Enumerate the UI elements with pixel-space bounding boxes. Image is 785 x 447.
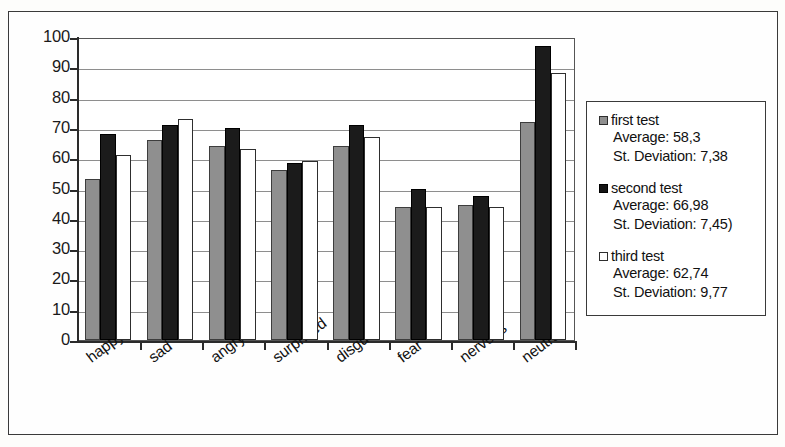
bar [473,196,489,340]
bar [395,207,411,340]
bar [85,179,101,340]
bar-group [85,39,132,340]
legend-st-deviation: St. Deviation: 7,38 [599,147,765,166]
y-tick-label: 70 [24,118,70,137]
legend-entry: third testAverage: 62,74St. Deviation: 9… [599,248,765,301]
bar [489,207,505,340]
y-tick-label: 60 [24,148,70,167]
bar [240,149,256,340]
y-tick-label: 20 [24,269,70,288]
bar [333,146,349,340]
legend-average: Average: 66,98 [599,196,765,215]
legend-average: Average: 62,74 [599,264,765,283]
legend-series-label: second test [611,180,682,196]
chart-page: 1009080706050403020100 happysadangrysurp… [0,0,785,447]
y-tick-label: 50 [24,179,70,198]
bar-group [333,39,380,340]
x-axis-line [77,341,576,343]
legend-swatch-icon [599,252,608,261]
bar [162,125,178,340]
legend-entry: second testAverage: 66,98St. Deviation: … [599,180,765,233]
y-tick-label: 0 [24,330,70,349]
bar [116,155,132,340]
legend-series-label: first test [611,112,659,128]
bar-group [209,39,256,340]
bar [364,137,380,340]
legend-entry-header: third test [599,248,765,264]
legend-swatch-icon [599,184,608,193]
legend-entry: first testAverage: 58,3St. Deviation: 7,… [599,112,765,165]
bar [411,189,427,341]
y-tick-label: 90 [24,57,70,76]
legend-series-label: third test [611,248,664,264]
legend-average: Average: 58,3 [599,128,765,147]
bar [349,125,365,340]
y-tick-label: 80 [24,88,70,107]
legend-entry-header: first test [599,112,765,128]
bar [147,140,163,340]
bar [426,207,442,340]
bar [178,119,194,340]
bar [271,170,287,340]
y-tick-label: 100 [24,27,70,46]
y-tick-label: 40 [24,209,70,228]
y-tick-label: 30 [24,239,70,258]
bar-group [458,39,505,340]
bar [100,134,116,340]
legend: first testAverage: 58,3St. Deviation: 7,… [586,101,766,316]
bar-group [395,39,442,340]
legend-entry-header: second test [599,180,765,196]
bar-group [271,39,318,340]
bar [287,163,303,340]
bar-group [520,39,567,340]
y-axis-line [77,37,79,343]
plot-area [78,38,575,341]
legend-st-deviation: St. Deviation: 9,77 [599,283,765,302]
bar [225,128,241,340]
bar-group [147,39,194,340]
bar [551,73,567,340]
legend-st-deviation: St. Deviation: 7,45) [599,215,765,234]
bar [520,122,536,340]
bar [302,161,318,340]
legend-swatch-icon [599,116,608,125]
bar [209,146,225,340]
bar [458,205,474,340]
bar [535,46,551,340]
y-axis-tick-labels: 1009080706050403020100 [12,0,70,447]
y-tick-label: 10 [24,300,70,319]
